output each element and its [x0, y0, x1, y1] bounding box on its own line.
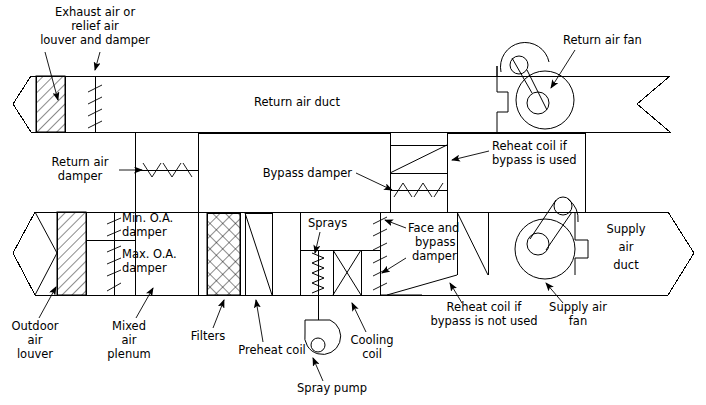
return-air-fan-label: Return air fan: [563, 33, 642, 47]
sprays-label: Sprays: [308, 216, 347, 230]
reheat-not-used-line2: bypass is not used: [430, 314, 537, 328]
exhaust-louver-line2: relief air: [71, 19, 119, 33]
label-min-oa-damper: Min. O.A. damper: [122, 211, 173, 239]
supply-fan-line1: Supply air: [549, 300, 607, 314]
max-oa-line2: damper: [122, 261, 167, 275]
face-bypass-line1: Face and: [408, 221, 459, 235]
reheat-used-line2: bypass is used: [492, 153, 577, 167]
filters-label: Filters: [191, 329, 225, 343]
bypass-damper-label: Bypass damper: [263, 166, 353, 180]
spray-pump-label: Spray pump: [297, 381, 367, 395]
supply-fan-line2: fan: [569, 314, 587, 328]
max-oa-line1: Max. O.A.: [122, 247, 177, 261]
exhaust-air-louver: [36, 76, 65, 132]
exhaust-louver-line3: louver and damper: [40, 33, 150, 47]
supply-duct-line3: duct: [613, 258, 639, 272]
mixed-plenum-line1: Mixed: [112, 319, 146, 333]
cooling-coil-line2: coil: [362, 347, 382, 361]
filters: [207, 213, 240, 295]
min-oa-line1: Min. O.A.: [122, 211, 173, 225]
supply-duct-line2: air: [619, 240, 634, 254]
return-air-damper-line2: damper: [58, 169, 103, 183]
return-air-damper-line1: Return air: [52, 155, 109, 169]
outdoor-louver-line3: louver: [17, 347, 53, 361]
supply-duct-line1: Supply: [606, 222, 645, 236]
cooling-coil-line1: Cooling: [350, 333, 393, 347]
face-bypass-line3: damper: [412, 249, 457, 263]
hvac-schematic-diagram: Exhaust air or relief air louver and dam…: [0, 0, 706, 405]
outdoor-louver-line1: Outdoor: [12, 319, 59, 333]
return-air-duct-label: Return air duct: [254, 95, 340, 109]
face-bypass-line2: bypass: [415, 235, 455, 249]
reheat-not-used-line1: Reheat coil if: [447, 300, 523, 314]
preheat-coil-label: Preheat coil: [238, 343, 306, 357]
reheat-used-line1: Reheat coil if: [492, 139, 568, 153]
outdoor-louver-line2: air: [28, 333, 43, 347]
min-oa-line2: damper: [122, 225, 167, 239]
mixed-plenum-line2: air: [122, 333, 137, 347]
exhaust-louver-line1: Exhaust air or: [55, 5, 136, 19]
outdoor-air-louver: [57, 212, 86, 295]
mixed-plenum-line3: plenum: [107, 347, 150, 361]
